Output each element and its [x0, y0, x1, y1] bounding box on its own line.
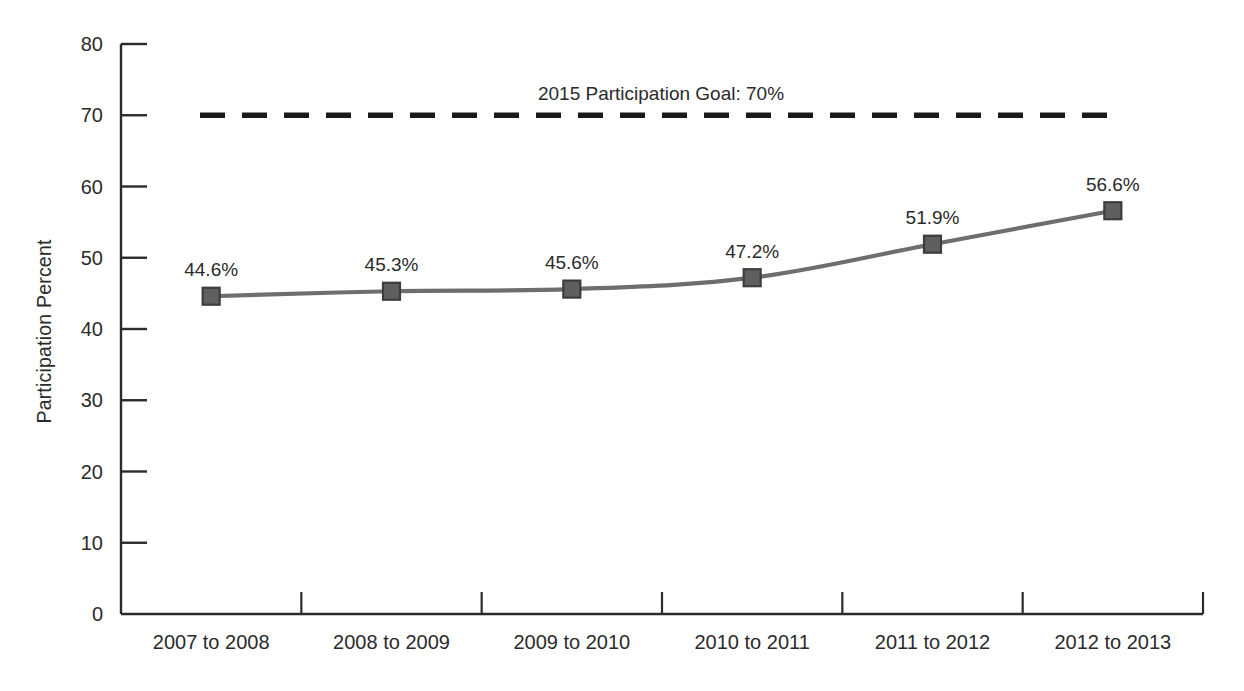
data-marker	[383, 283, 400, 300]
y-axis-tick-label: 70	[33, 105, 103, 125]
goal-line-annotation: 2015 Participation Goal: 70%	[411, 84, 911, 103]
participation-line-chart: Participation Percent 01020304050607080 …	[0, 0, 1244, 691]
y-axis-tick-label: 0	[33, 604, 103, 624]
data-point-label: 51.9%	[858, 208, 1008, 227]
y-axis-tick-label: 50	[33, 248, 103, 268]
data-point-label: 45.6%	[497, 253, 647, 272]
axes	[121, 44, 1203, 614]
x-axis-tick-label: 2007 to 2008	[111, 632, 311, 652]
y-axis-tick-label: 80	[33, 34, 103, 54]
y-axis-tick-label: 20	[33, 462, 103, 482]
x-axis-tick-label: 2008 to 2009	[292, 632, 492, 652]
data-point-label: 44.6%	[136, 260, 286, 279]
data-marker	[924, 236, 941, 253]
y-axis-tick-label: 10	[33, 533, 103, 553]
data-point-label: 45.3%	[317, 255, 467, 274]
x-axis-tick-label: 2010 to 2011	[652, 632, 852, 652]
data-marker	[744, 269, 761, 286]
data-point-label: 47.2%	[677, 242, 827, 261]
data-marker	[563, 281, 580, 298]
data-point-label: 56.6%	[1038, 175, 1188, 194]
y-axis-tick-label: 60	[33, 177, 103, 197]
data-marker	[1104, 202, 1121, 219]
x-axis-tick-label: 2011 to 2012	[833, 632, 1033, 652]
data-marker	[203, 288, 220, 305]
y-axis-tick-label: 30	[33, 390, 103, 410]
x-axis-tick-label: 2009 to 2010	[472, 632, 672, 652]
x-axis-tick-label: 2012 to 2013	[1013, 632, 1213, 652]
y-axis-tick-label: 40	[33, 319, 103, 339]
